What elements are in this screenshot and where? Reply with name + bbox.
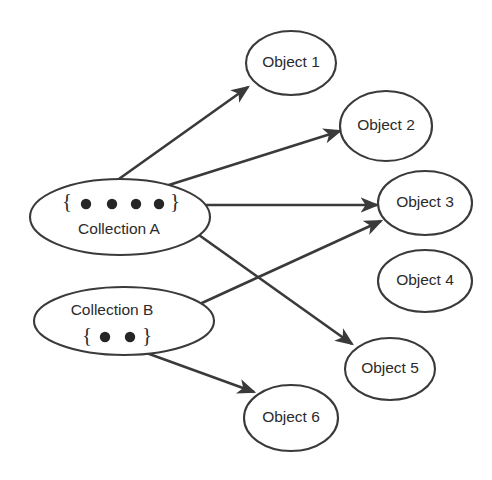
- collection-b-open-brace: {: [82, 323, 92, 347]
- object-3: Object 3: [378, 171, 472, 235]
- collection-b-close-brace: }: [142, 323, 152, 347]
- collection-a-outline: [30, 179, 210, 255]
- collections-layer: Collection A{}Collection B{}: [30, 179, 214, 355]
- object-4-label: Object 4: [396, 271, 454, 288]
- collection-a: Collection A{}: [30, 179, 210, 255]
- diagram-canvas: Collection A{}Collection B{} Object 1Obj…: [0, 0, 492, 480]
- object-5: Object 5: [345, 338, 435, 400]
- b-dot-1[interactable]: [100, 332, 110, 342]
- collection-b: Collection B{}: [34, 287, 214, 355]
- a-dot-4[interactable]: [154, 199, 164, 209]
- object-1: Object 1: [246, 31, 336, 95]
- object-5-label: Object 5: [361, 359, 419, 376]
- collection-a-close-brace: }: [170, 189, 180, 213]
- object-2: Object 2: [340, 91, 432, 161]
- collection-b-label: Collection B: [71, 301, 154, 318]
- object-6: Object 6: [244, 385, 338, 451]
- objects-layer: Object 1Object 2Object 3Object 4Object 5…: [244, 31, 472, 451]
- object-6-label: Object 6: [262, 408, 320, 425]
- a-dot-3[interactable]: [131, 199, 141, 209]
- object-1-label: Object 1: [262, 53, 320, 70]
- b-dot-2[interactable]: [125, 332, 135, 342]
- object-4: Object 4: [378, 250, 472, 312]
- a-dot-1[interactable]: [81, 199, 91, 209]
- a-dot-2[interactable]: [107, 199, 117, 209]
- collection-b-outline: [34, 287, 214, 355]
- object-3-label: Object 3: [396, 193, 454, 210]
- collection-a-open-brace: {: [62, 189, 72, 213]
- collection-a-label: Collection A: [78, 220, 161, 237]
- object-2-label: Object 2: [357, 116, 415, 133]
- object-reference-diagram: Collection A{}Collection B{} Object 1Obj…: [0, 0, 492, 480]
